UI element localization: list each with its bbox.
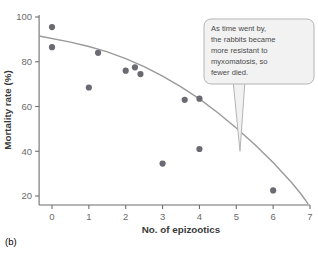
data-point (196, 96, 202, 102)
figure-panel-b: 20406080100 01234567 No. of epizootics M… (0, 0, 318, 256)
data-point (159, 160, 165, 166)
callout-line: myxomatosis, so (211, 57, 268, 66)
data-point (49, 44, 55, 50)
scatter-chart: 20406080100 01234567 No. of epizootics M… (0, 0, 318, 256)
panel-label: (b) (5, 236, 17, 247)
data-point (123, 68, 129, 74)
y-tick-label: 60 (22, 101, 33, 112)
data-point (95, 50, 101, 56)
data-point (86, 84, 92, 90)
x-tick-label: 4 (197, 211, 202, 222)
annotation-callout[interactable]: As time went by,the rabbits becamemore r… (204, 19, 314, 151)
x-tick-label: 1 (86, 211, 91, 222)
data-point (182, 97, 188, 103)
callout-tail (233, 80, 245, 151)
data-point (196, 146, 202, 152)
y-axis-title: Mortality rate (%) (2, 70, 13, 149)
callout-line: As time went by, (211, 24, 266, 33)
data-point (49, 24, 55, 30)
y-tick-label: 20 (22, 190, 33, 201)
x-axis-ticks: 01234567 (49, 205, 312, 222)
callout-line: the rabbits became (211, 35, 276, 44)
x-axis-title: No. of epizootics (142, 224, 221, 235)
x-tick-label: 3 (160, 211, 165, 222)
data-point (270, 187, 276, 193)
y-tick-label: 40 (22, 146, 33, 157)
x-tick-label: 2 (123, 211, 128, 222)
y-axis-ticks: 20406080100 (16, 11, 39, 201)
x-tick-label: 7 (307, 211, 312, 222)
x-tick-label: 5 (234, 211, 239, 222)
callout-line: more resistant to (211, 46, 268, 55)
y-tick-label: 80 (22, 56, 33, 67)
x-tick-label: 6 (270, 211, 275, 222)
y-tick-label: 100 (16, 11, 32, 22)
x-tick-label: 0 (49, 211, 54, 222)
callout-line: fewer died. (211, 68, 248, 77)
data-point (137, 71, 143, 77)
data-point (132, 64, 138, 70)
